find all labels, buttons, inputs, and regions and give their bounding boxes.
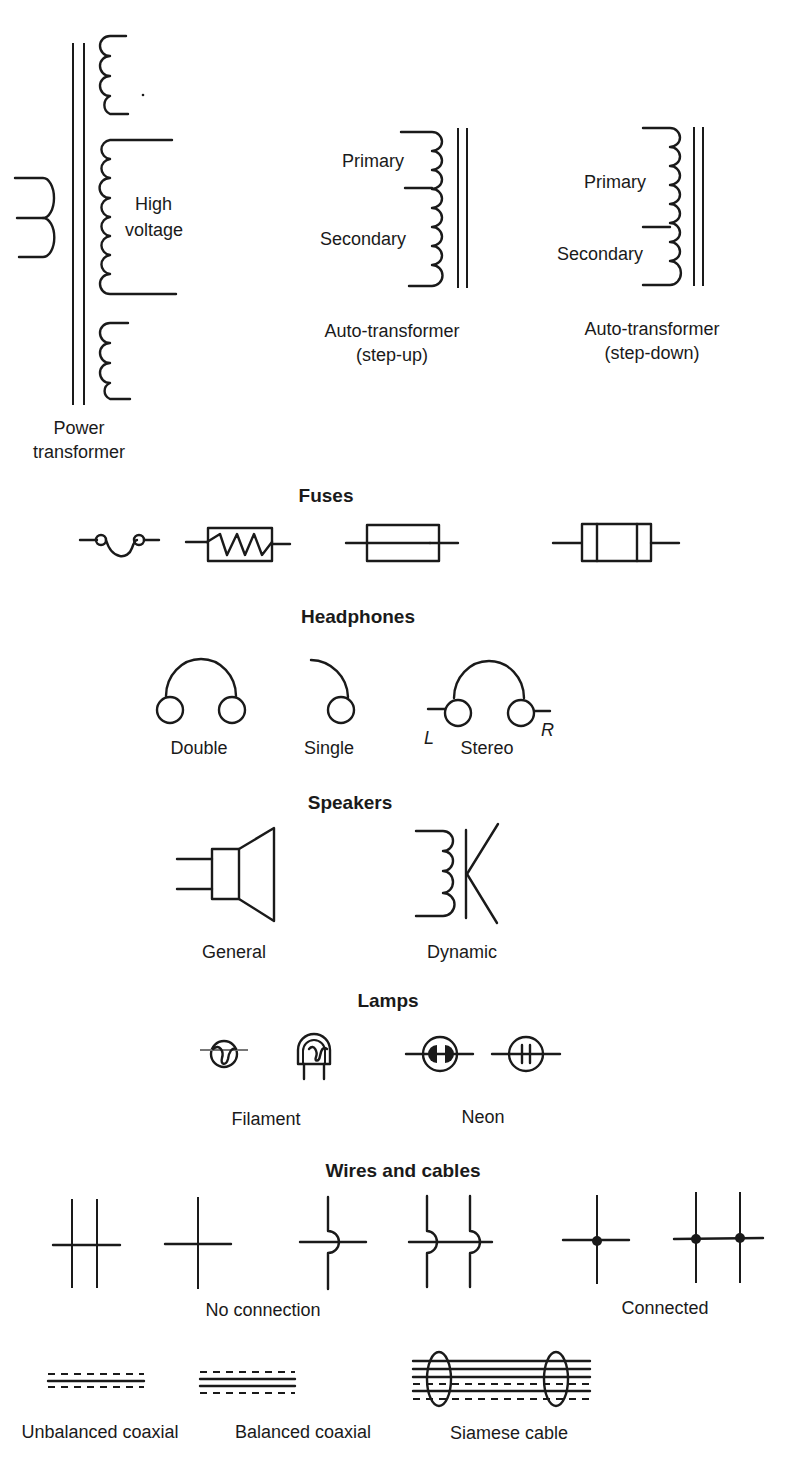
connected-label: Connected [621, 1297, 708, 1319]
lamps-heading: Lamps [357, 990, 418, 1012]
step-up-primary-label: Primary [342, 150, 404, 172]
auto-transformer-step-down-symbol [643, 127, 703, 286]
wires-heading: Wires and cables [325, 1160, 480, 1182]
step-down-label-line1: Auto-transformer [584, 318, 719, 340]
auto-transformer-step-up-symbol [401, 128, 467, 288]
wire-no-connection-cross-symbol [165, 1197, 231, 1289]
lamp-filament-dome-symbol [298, 1034, 330, 1079]
headphones-stereo-symbol [428, 661, 550, 726]
wire-connected-double-symbol [674, 1192, 763, 1283]
balanced-coaxial-label: Balanced coaxial [235, 1421, 371, 1443]
speaker-dynamic-label: Dynamic [427, 941, 497, 963]
step-down-label-line2: (step-down) [604, 342, 699, 364]
stereo-right-marker: R [541, 719, 554, 741]
headphones-double-symbol [157, 659, 245, 723]
high-voltage-label-line2: voltage [125, 219, 183, 241]
headphones-double-label: Double [170, 737, 227, 759]
fuse-cartridge-symbol [553, 524, 679, 561]
cable-siamese-symbol [413, 1352, 590, 1406]
speaker-dynamic-symbol [416, 824, 498, 923]
power-transformer-label-line2: transformer [33, 441, 125, 463]
step-up-label-line2: (step-up) [356, 344, 428, 366]
fuse-wire-loop-symbol [80, 535, 159, 556]
fuses-heading: Fuses [299, 485, 354, 507]
wire-connected-single-symbol [563, 1195, 629, 1284]
wire-no-connection-double-hop-symbol [409, 1196, 492, 1287]
high-voltage-label-line1: High [135, 193, 172, 215]
speaker-general-symbol [177, 828, 274, 921]
siamese-cable-label: Siamese cable [450, 1422, 568, 1444]
headphones-heading: Headphones [301, 606, 415, 628]
lamp-neon-label: Neon [461, 1106, 504, 1128]
symbol-diagram [0, 0, 789, 1463]
cable-unbalanced-coaxial-symbol [48, 1374, 144, 1387]
power-transformer-label-line1: Power [53, 417, 104, 439]
step-up-secondary-label: Secondary [320, 228, 406, 250]
step-down-primary-label: Primary [584, 171, 646, 193]
headphones-stereo-label: Stereo [460, 737, 513, 759]
lamp-filament-label: Filament [231, 1108, 300, 1130]
speakers-heading: Speakers [308, 792, 393, 814]
lamp-filament-round-symbol [200, 1041, 248, 1067]
headphones-single-symbol [311, 660, 354, 723]
cable-balanced-coaxial-symbol [200, 1372, 295, 1393]
wire-no-connection-hop-symbol [300, 1197, 366, 1289]
lamp-neon-dots-symbol [406, 1037, 473, 1071]
stereo-left-marker: L [424, 727, 434, 749]
wire-no-connection-double-symbol [53, 1199, 120, 1288]
no-connection-label: No connection [205, 1299, 320, 1321]
headphones-single-label: Single [304, 737, 354, 759]
unbalanced-coaxial-label: Unbalanced coaxial [21, 1421, 178, 1443]
fuse-zigzag-box-symbol [186, 528, 290, 561]
lamp-neon-plates-symbol [492, 1037, 560, 1071]
step-down-secondary-label: Secondary [557, 243, 643, 265]
speaker-general-label: General [202, 941, 266, 963]
fuse-line-box-symbol [346, 525, 458, 561]
step-up-label-line1: Auto-transformer [324, 320, 459, 342]
